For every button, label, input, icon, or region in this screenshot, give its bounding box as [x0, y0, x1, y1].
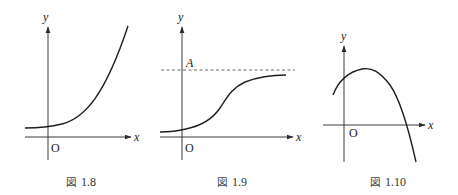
parabola-curve [333, 69, 416, 162]
figures-canvas: y x O 図 1.8 y A x O 図 1.9 y x O 図 1.10 [0, 0, 458, 195]
exponential-curve [25, 26, 128, 128]
x-axis-label: x [295, 130, 302, 144]
logistic-curve [160, 75, 286, 132]
caption-number: 1.9 [232, 175, 247, 189]
origin-label: O [51, 141, 60, 155]
y-axis-label: y [42, 10, 49, 24]
origin-label: O [185, 141, 194, 155]
x-axis-label: x [133, 130, 140, 144]
caption-prefix: 図 [217, 176, 227, 188]
caption-number: 1.8 [81, 175, 96, 189]
caption-number: 1.10 [385, 175, 406, 189]
y-axis-label: y [177, 10, 184, 24]
asymptote-label: A [185, 56, 194, 70]
origin-label: O [349, 126, 358, 140]
caption-prefix: 図 [370, 176, 380, 188]
figure-1-10: y x O 図 1.10 [323, 29, 434, 189]
figure-1-8: y x O 図 1.8 [25, 10, 140, 189]
caption-prefix: 図 [66, 176, 76, 188]
figure-1-9: y A x O 図 1.9 [160, 10, 302, 189]
y-axis-label: y [340, 29, 347, 43]
x-axis-label: x [427, 118, 434, 132]
